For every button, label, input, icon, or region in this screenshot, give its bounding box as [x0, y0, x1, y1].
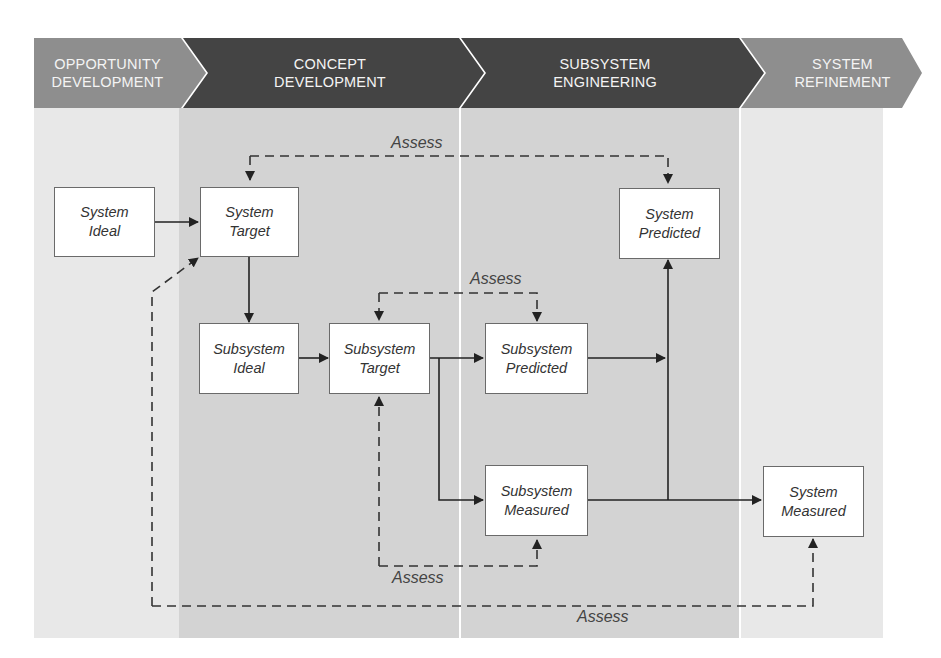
- dashed-assess-bottom: [152, 539, 813, 606]
- box-line1: Subsystem: [501, 482, 573, 501]
- box-line1: Subsystem: [213, 340, 285, 359]
- box-line1: System: [80, 203, 128, 222]
- connector-lines: [0, 0, 941, 658]
- box-line2: Predicted: [506, 359, 567, 378]
- dashed-assess-middle: [379, 293, 537, 321]
- box-system-measured: System Measured: [763, 466, 864, 537]
- box-subsystem-ideal: Subsystem Ideal: [199, 323, 299, 394]
- box-line2: Ideal: [89, 222, 120, 241]
- box-subsystem-target: Subsystem Target: [329, 323, 430, 394]
- box-line2: Target: [229, 222, 270, 241]
- box-line1: Subsystem: [344, 340, 416, 359]
- box-line1: System: [645, 205, 693, 224]
- assess-label-middle: Assess: [470, 270, 522, 288]
- box-system-target: System Target: [200, 187, 299, 257]
- assess-label-top: Assess: [391, 134, 443, 152]
- dashed-assess-lower: [379, 540, 537, 566]
- box-line2: Target: [359, 359, 400, 378]
- box-line2: Measured: [781, 502, 845, 521]
- assess-label-bottom: Assess: [577, 608, 629, 626]
- box-line1: Subsystem: [501, 340, 573, 359]
- box-line2: Measured: [504, 501, 568, 520]
- box-subsystem-predicted: Subsystem Predicted: [485, 323, 588, 394]
- box-subsystem-measured: Subsystem Measured: [485, 465, 588, 536]
- assess-label-lower: Assess: [392, 569, 444, 587]
- box-line1: System: [225, 203, 273, 222]
- box-system-ideal: System Ideal: [54, 187, 155, 257]
- box-line2: Ideal: [233, 359, 264, 378]
- box-system-predicted: System Predicted: [619, 188, 720, 259]
- box-line2: Predicted: [639, 224, 700, 243]
- dashed-assess-top: [250, 156, 668, 183]
- arrow-subtarget-to-submeasured: [439, 358, 483, 500]
- box-line1: System: [789, 483, 837, 502]
